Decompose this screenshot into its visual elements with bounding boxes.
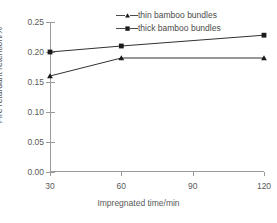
chart-figure: 0.000.050.100.150.200.25 306090120 thin …: [0, 0, 277, 223]
legend-label-thick: thick bamboo bundles: [138, 24, 221, 33]
x-tick: [193, 172, 194, 176]
y-tick-label: 0.10: [27, 108, 44, 117]
legend-item-thick: thick bamboo bundles: [116, 23, 221, 34]
triangle-marker-icon: [116, 10, 138, 21]
x-tick: [121, 172, 122, 176]
x-axis-title: Impregnated time/min: [0, 198, 277, 208]
data-point-marker: [48, 50, 53, 55]
x-tick-label: 60: [117, 182, 126, 191]
series-plot: [50, 22, 264, 172]
y-tick-label: 0.05: [27, 138, 44, 147]
x-tick: [50, 172, 51, 176]
legend-item-thin: thin bamboo bundles: [116, 10, 221, 21]
y-tick-label: 0.20: [27, 48, 44, 57]
x-tick-label: 30: [45, 182, 54, 191]
series-line: [50, 35, 264, 52]
chart-legend: thin bamboo bundles thick bamboo bundles: [116, 10, 221, 36]
legend-label-thin: thin bamboo bundles: [138, 11, 217, 20]
data-point-marker: [119, 44, 124, 49]
x-tick: [264, 172, 265, 176]
y-tick-label: 0.00: [27, 168, 44, 177]
y-axis-title: Fire retardant retention/%: [0, 0, 6, 150]
y-tick-inner: [51, 172, 55, 173]
series-line: [50, 58, 264, 76]
y-tick-label: 0.15: [27, 78, 44, 87]
y-tick-label: 0.25: [27, 18, 44, 27]
data-point-marker: [262, 33, 267, 38]
x-tick-label: 90: [188, 182, 197, 191]
square-marker-icon: [116, 23, 138, 34]
x-tick-label: 120: [257, 182, 271, 191]
plot-area: 0.000.050.100.150.200.25 306090120 thin …: [50, 22, 264, 172]
